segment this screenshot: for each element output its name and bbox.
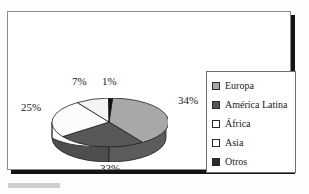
legend-swatch-otros [212, 158, 220, 166]
chart-frame: 34% 33% 25% 7% 1% Europa América Latina … [7, 11, 291, 170]
pie-label-america-latina: 33% [100, 162, 120, 174]
pie-label-otros: 1% [102, 75, 117, 87]
pie-label-europa: 34% [178, 94, 198, 106]
legend-swatch-asia [212, 139, 220, 147]
legend-label-asia: Asia [225, 138, 243, 148]
legend-swatch-africa [212, 120, 220, 128]
legend-label-america-latina: América Latina [225, 100, 287, 110]
chart-legend: Europa América Latina África Asia Otros [206, 71, 296, 173]
legend-item-europa: Europa [212, 76, 295, 95]
legend-item-africa: África [212, 114, 295, 133]
legend-item-america-latina: América Latina [212, 95, 295, 114]
legend-label-europa: Europa [225, 81, 254, 91]
legend-item-asia: Asia [212, 133, 295, 152]
legend-swatch-europa [212, 82, 220, 90]
pie-label-asia: 7% [72, 75, 87, 87]
scan-artifact-strip [8, 183, 60, 188]
legend-label-otros: Otros [225, 157, 247, 167]
scanned-page-background: 34% 33% 25% 7% 1% Europa América Latina … [0, 0, 309, 194]
pie-chart-svg [50, 98, 168, 162]
legend-swatch-america-latina [212, 101, 220, 109]
legend-item-otros: Otros [212, 152, 295, 171]
legend-label-africa: África [225, 119, 251, 129]
pie-chart [50, 98, 168, 162]
pie-label-africa: 25% [21, 101, 41, 113]
